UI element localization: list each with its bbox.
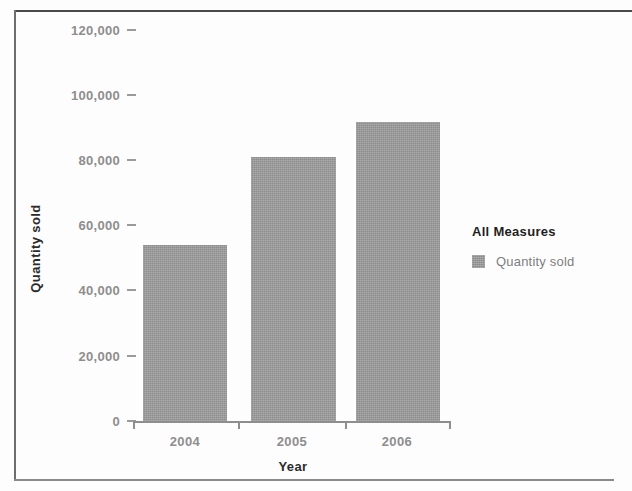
legend: All Measures Quantity sold <box>472 224 622 269</box>
x-axis-title: Year <box>278 459 307 474</box>
square-swatch-icon <box>472 255 485 268</box>
x-tick-mark-2005-2006 <box>345 421 347 429</box>
x-tick-mark-2004-2005 <box>238 421 240 429</box>
bar-chart: 120,000 100,000 80,000 60,000 40,000 20,… <box>0 0 632 491</box>
y-tick-mark-40000 <box>127 289 136 291</box>
y-tick-label-20000: 20,000 <box>20 349 120 364</box>
y-tick-label-80000: 80,000 <box>20 153 120 168</box>
y-tick-mark-100000 <box>127 94 136 96</box>
y-tick-mark-120000 <box>127 29 136 31</box>
y-tick-mark-60000 <box>127 224 136 226</box>
y-tick-label-100000: 100,000 <box>20 88 120 103</box>
bar-2005[interactable] <box>251 157 336 421</box>
y-tick-label-120000: 120,000 <box>20 23 120 38</box>
bar-2006[interactable] <box>356 122 440 421</box>
x-tick-label-2004: 2004 <box>170 434 201 449</box>
x-tick-label-2006: 2006 <box>382 434 413 449</box>
x-tick-mark-end <box>449 421 451 429</box>
y-axis-title: Quantity sold <box>28 199 43 299</box>
y-tick-label-0: 0 <box>20 414 120 429</box>
x-tick-label-2005: 2005 <box>277 434 308 449</box>
bar-2004[interactable] <box>143 245 227 421</box>
y-tick-mark-20000 <box>127 355 136 357</box>
legend-item-quantity-sold[interactable]: Quantity sold <box>472 254 622 269</box>
y-tick-mark-80000 <box>127 159 136 161</box>
legend-title: All Measures <box>472 224 622 239</box>
x-tick-mark-start <box>133 421 135 429</box>
legend-item-label: Quantity sold <box>496 254 574 269</box>
chart-page: 120,000 100,000 80,000 60,000 40,000 20,… <box>0 0 632 491</box>
x-axis-line <box>133 421 451 423</box>
